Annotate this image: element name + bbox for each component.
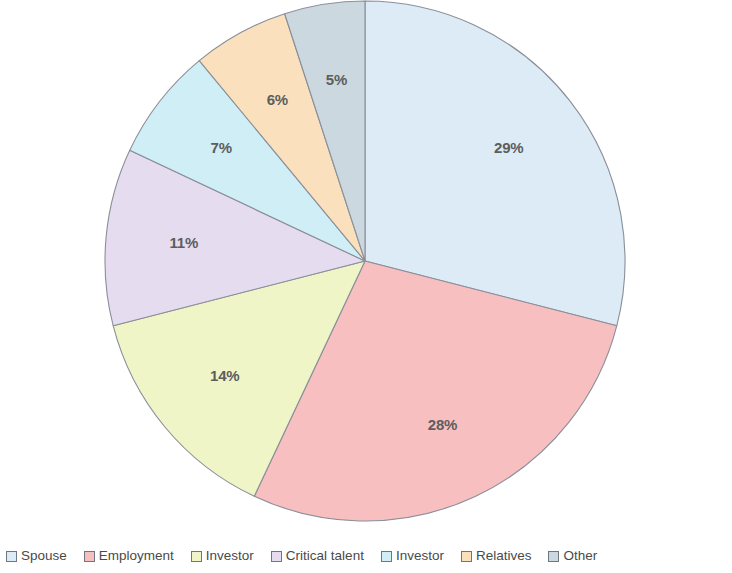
legend-item-label: Other: [563, 549, 597, 563]
legend-item-label: Relatives: [476, 549, 532, 563]
legend-swatch-icon: [381, 551, 392, 562]
pie-slice-label: 28%: [428, 416, 457, 433]
pie-chart: 29%28%14%11%7%6%5% SpouseEmploymentInves…: [0, 0, 732, 573]
legend-swatch-icon: [548, 551, 559, 562]
pie-slice-label: 14%: [210, 367, 239, 384]
chart-legend: SpouseEmploymentInvestorCritical talentI…: [0, 543, 732, 569]
legend-item[interactable]: Investor: [381, 549, 444, 563]
legend-swatch-icon: [271, 551, 282, 562]
legend-item[interactable]: Spouse: [6, 549, 67, 563]
legend-swatch-icon: [6, 551, 17, 562]
pie-slice-label: 5%: [326, 71, 347, 88]
legend-item-label: Investor: [206, 549, 254, 563]
legend-item[interactable]: Critical talent: [271, 549, 364, 563]
pie-slice-label: 29%: [494, 139, 523, 156]
legend-swatch-icon: [461, 551, 472, 562]
pie-plot-area: 29%28%14%11%7%6%5%: [0, 0, 732, 525]
legend-item[interactable]: Other: [548, 549, 597, 563]
legend-item-label: Critical talent: [286, 549, 364, 563]
pie-slice-label: 6%: [267, 91, 288, 108]
pie-slice-label: 11%: [169, 234, 198, 251]
legend-item[interactable]: Relatives: [461, 549, 532, 563]
legend-swatch-icon: [191, 551, 202, 562]
legend-item-label: Employment: [99, 549, 174, 563]
pie-slice-label: 7%: [211, 139, 232, 156]
pie-svg: 29%28%14%11%7%6%5%: [0, 0, 732, 525]
legend-item-label: Spouse: [21, 549, 67, 563]
legend-item[interactable]: Employment: [84, 549, 174, 563]
legend-item[interactable]: Investor: [191, 549, 254, 563]
legend-item-label: Investor: [396, 549, 444, 563]
legend-swatch-icon: [84, 551, 95, 562]
pie-slices-group: [105, 1, 625, 521]
